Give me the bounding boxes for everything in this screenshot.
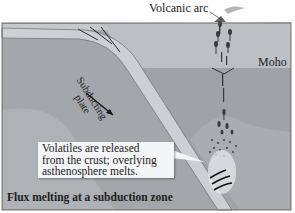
callout-line3: asthenosphere melts. — [42, 166, 170, 178]
subduction-illustration — [0, 0, 295, 213]
volatiles-callout: Volatiles are released from the crust; o… — [38, 142, 174, 178]
eruption-plume-icon — [224, 6, 245, 14]
diagram-canvas: Volcanic arc Moho Subducting plate Volat… — [0, 0, 295, 213]
callout-line1: Volatiles are released — [42, 143, 170, 155]
diagram-title: Flux melting at a subduction zone — [7, 191, 173, 203]
moho-label: Moho — [258, 55, 287, 70]
volcanic-arc-label: Volcanic arc — [149, 1, 208, 16]
volcanic-arc-pointer — [210, 12, 222, 20]
